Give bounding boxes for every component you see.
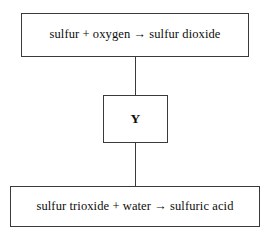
flow-node-reaction-2: sulfur trioxide + water → sulfuric acid — [10, 186, 260, 227]
flow-node-reaction-1-label: sulfur + oxygen → sulfur dioxide — [50, 28, 221, 42]
flow-node-reaction-1: sulfur + oxygen → sulfur dioxide — [21, 13, 249, 57]
connector-line-bottom — [135, 143, 136, 186]
connector-line-top — [135, 57, 136, 95]
flow-node-reaction-2-label: sulfur trioxide + water → sulfuric acid — [36, 200, 233, 214]
flow-diagram: sulfur + oxygen → sulfur dioxide Y sulfu… — [0, 0, 268, 241]
flow-node-unknown-step: Y — [103, 95, 168, 143]
flow-node-unknown-step-label: Y — [131, 112, 141, 127]
